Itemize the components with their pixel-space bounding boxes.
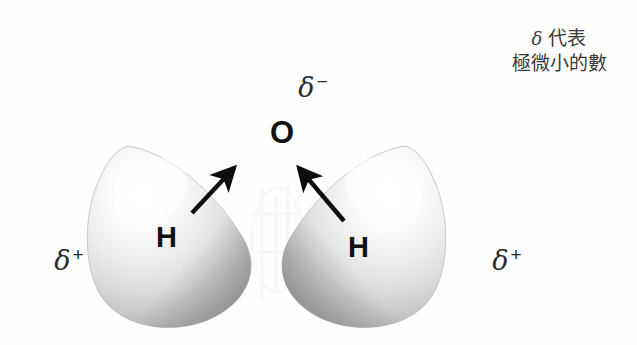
legend-line-1: δ 代表	[489, 26, 629, 51]
legend-delta-symbol: δ	[532, 28, 543, 49]
legend-line-2: 極微小的數	[489, 51, 629, 76]
legend-annotation: δ 代表 極微小的數	[489, 26, 629, 76]
legend-line-1-text: 代表	[542, 27, 586, 49]
hydrogen-lobe-right	[282, 145, 446, 328]
water-molecule-figure: δ− δ+ δ+ O H H δ 代表 極微小的數	[0, 0, 637, 345]
hydrogen-lobe-left	[87, 145, 251, 328]
